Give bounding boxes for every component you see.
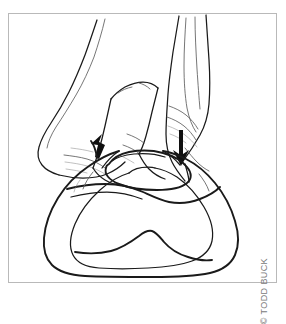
hoof-frog xyxy=(75,231,212,261)
arrow-up-icon xyxy=(91,134,105,159)
figure-frame: © TODD BUCK xyxy=(8,13,277,283)
anatomical-line-drawing xyxy=(9,14,278,284)
hand-left-fingers xyxy=(38,19,165,185)
